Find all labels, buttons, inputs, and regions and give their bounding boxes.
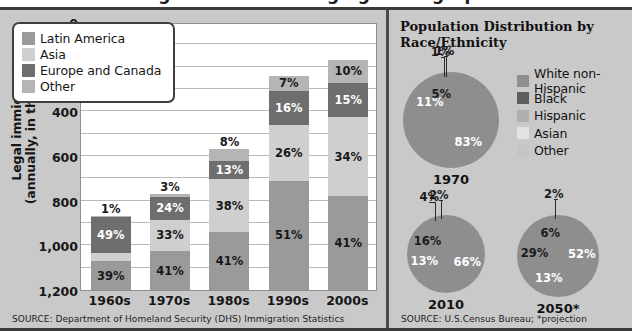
pie-panel-title-line1: Population Distribution by	[400, 19, 620, 35]
pie-label-leader-line	[555, 199, 556, 219]
legend-item-3[interactable]: Other	[22, 78, 161, 94]
pie-chart-2010: 66%13%16%4%2%2010	[407, 215, 485, 315]
pie-label-leader-line	[444, 57, 445, 78]
pie-slices[interactable]: 66%13%16%4%2%	[407, 215, 485, 293]
bar-segment[interactable]: 41%	[328, 196, 368, 290]
clipped-figure-title-text: U.S. Immigration and Changing Demographi…	[64, 0, 516, 4]
x-axis-tick: 2000s	[318, 293, 377, 308]
pie-slice-label: 13%	[535, 271, 563, 285]
bar-segment[interactable]: 16%	[269, 91, 309, 125]
legend-swatch-icon	[517, 145, 529, 157]
pie-slices[interactable]: 83%11%5%1%1%	[403, 72, 499, 168]
pie-slice-label: 16%	[414, 234, 442, 248]
pie-legend-item-4[interactable]: Other	[517, 142, 629, 160]
legend-item-label: Asia	[40, 47, 66, 62]
bar-segment[interactable]: 26%	[269, 125, 309, 181]
bar-segment-label: 41%	[209, 254, 249, 268]
pie-slice-label: 29%	[521, 246, 549, 260]
x-axis-tick: 1980s	[199, 293, 258, 308]
y-axis-tick: 400	[20, 105, 78, 120]
population-pie-panel: Population Distribution by Race/Ethnicit…	[389, 10, 629, 328]
bar-slot: 41%38%13%8%	[200, 24, 259, 290]
legend-item-label: Other	[40, 79, 75, 94]
bar-segment-label: 13%	[209, 163, 249, 177]
infographic-figure: Legal immigrants (annually, in thousands…	[0, 7, 632, 331]
pie-slice-label: 13%	[411, 254, 439, 268]
pie-legend-item-0[interactable]: White non-Hispanic	[517, 72, 629, 90]
pie-legend-item-label: Black	[534, 91, 567, 106]
bar-segment[interactable]: 3%	[150, 194, 190, 197]
bar-segment[interactable]: 8%	[209, 149, 249, 160]
clipped-figure-title: U.S. Immigration and Changing Demographi…	[0, 0, 632, 7]
bar-segment[interactable]: 11%	[91, 253, 131, 261]
immigration-bar-chart-panel: Legal immigrants (annually, in thousands…	[0, 10, 389, 328]
bar-segment-label: 41%	[328, 236, 368, 250]
y-axis-tick: 1,200	[20, 284, 78, 299]
legend-item-label: Europe and Canada	[40, 63, 161, 78]
bar-segment[interactable]: 1%	[91, 216, 131, 217]
x-axis-tick: 1960s	[80, 293, 139, 308]
bar-chart-source: SOURCE: Department of Homeland Security …	[12, 314, 344, 324]
pie-legend-item-label: Asian	[534, 126, 567, 141]
legend-swatch-icon	[517, 75, 529, 87]
y-axis-tick: 1,000	[20, 239, 78, 254]
legend-swatch-icon	[517, 110, 529, 122]
bar-segment-label: 3%	[150, 180, 190, 194]
stacked-bar[interactable]: 41%38%13%8%	[209, 149, 249, 290]
bar-segment-label: 8%	[209, 135, 249, 149]
stacked-bar[interactable]: 51%26%16%7%	[269, 76, 309, 290]
bar-segment-label: 26%	[269, 146, 309, 160]
legend-item-2[interactable]: Europe and Canada	[22, 62, 161, 78]
pie-slice-label: 6%	[541, 226, 561, 240]
pie-slices[interactable]: 52%13%29%6%2%	[517, 215, 599, 297]
bar-segment[interactable]: 34%	[328, 117, 368, 195]
bar-segment[interactable]: 24%	[150, 197, 190, 220]
pie-legend-item-label: Other	[534, 143, 569, 158]
bar-segment[interactable]: 39%	[91, 261, 131, 290]
pie-label-leader-line	[435, 202, 436, 221]
legend-swatch-icon	[22, 64, 35, 77]
pie-slice-label: 1%	[435, 44, 455, 58]
bar-segment-label: 7%	[269, 76, 309, 90]
bar-segment[interactable]: 41%	[209, 232, 249, 290]
bar-segment-label: 24%	[150, 201, 190, 215]
stacked-bar[interactable]: 41%33%24%3%	[150, 194, 190, 290]
bar-segment-label: 39%	[91, 269, 131, 283]
bar-chart-legend: Latin AmericaAsiaEurope and CanadaOther	[12, 22, 175, 103]
legend-swatch-icon	[22, 80, 35, 93]
x-axis-tick: 1990s	[258, 293, 317, 308]
pie-label-leader-line	[446, 56, 447, 77]
bar-segment-label: 41%	[150, 264, 190, 278]
bar-segment[interactable]: 51%	[269, 181, 309, 290]
bar-segment[interactable]: 38%	[209, 179, 249, 232]
bar-segment[interactable]: 49%	[91, 217, 131, 253]
x-axis-tick: 1970s	[139, 293, 198, 308]
pie-legend-item-3[interactable]: Asian	[517, 125, 629, 143]
bar-segment-label: 33%	[150, 228, 190, 242]
bar-segment[interactable]: 7%	[269, 76, 309, 91]
pie-legend-item-label: Hispanic	[534, 108, 586, 123]
bar-slot: 51%26%16%7%	[259, 24, 318, 290]
legend-item-0[interactable]: Latin America	[22, 30, 161, 46]
pie-chart-source: SOURCE: U.S.Census Bureau; *projection	[401, 314, 587, 324]
pie-chart-1970: 83%11%5%1%1%1970	[403, 72, 499, 190]
bar-segment[interactable]: 33%	[150, 220, 190, 251]
pie-label-leader-line	[441, 200, 442, 220]
pie-slice-label: 2%	[429, 188, 449, 202]
bar-segment[interactable]: 15%	[328, 83, 368, 118]
pie-legend-item-2[interactable]: Hispanic	[517, 107, 629, 125]
bar-segment-label: 16%	[269, 101, 309, 115]
bar-segment-label: 10%	[328, 64, 368, 78]
pie-slice-label: 5%	[431, 87, 451, 101]
bar-segment-label: 51%	[269, 228, 309, 242]
y-axis-tick: 800	[20, 194, 78, 209]
bar-segment-label: 15%	[328, 93, 368, 107]
legend-swatch-icon	[22, 48, 35, 61]
stacked-bar[interactable]: 39%11%49%1%	[91, 216, 131, 290]
bar-segment[interactable]: 10%	[328, 60, 368, 83]
bar-segment[interactable]: 41%	[150, 251, 190, 290]
bar-segment[interactable]: 13%	[209, 161, 249, 179]
stacked-bar[interactable]: 41%34%15%10%	[328, 60, 368, 290]
legend-item-1[interactable]: Asia	[22, 46, 161, 62]
bar-segment-label: 34%	[328, 150, 368, 164]
